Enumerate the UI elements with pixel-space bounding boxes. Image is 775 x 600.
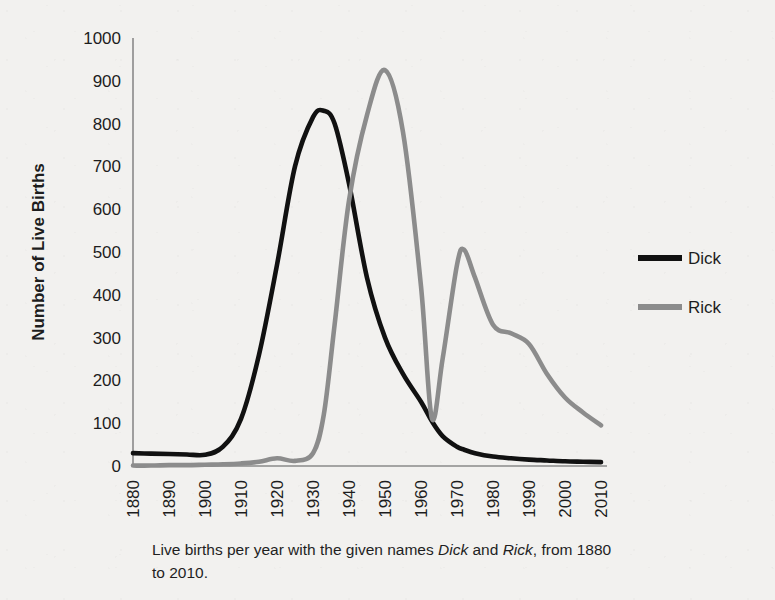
x-tick-label: 1970 bbox=[448, 480, 467, 518]
x-tick-label: 1890 bbox=[160, 480, 179, 518]
y-tick-label: 700 bbox=[93, 157, 121, 176]
y-tick-label: 600 bbox=[93, 200, 121, 219]
y-tick-label: 100 bbox=[93, 414, 121, 433]
caption-name-rick: Rick bbox=[503, 541, 533, 558]
y-tick-label: 400 bbox=[93, 286, 121, 305]
caption-text-post: , bbox=[533, 541, 537, 558]
caption-text-mid: and bbox=[468, 541, 502, 558]
x-tick-label: 1910 bbox=[232, 480, 251, 518]
figure-caption: Live births per year with the given name… bbox=[152, 538, 622, 584]
y-tick-label: 1000 bbox=[83, 29, 121, 48]
x-tick-label: 1990 bbox=[520, 480, 539, 518]
series-line-dick bbox=[133, 110, 601, 462]
x-tick-label: 2000 bbox=[556, 480, 575, 518]
x-tick-label: 1950 bbox=[376, 480, 395, 518]
x-tick-label: 1930 bbox=[304, 480, 323, 518]
x-tick-label: 2010 bbox=[592, 480, 611, 518]
y-tick-label: 200 bbox=[93, 371, 121, 390]
x-tick-label: 1980 bbox=[484, 480, 503, 518]
y-tick-label: 0 bbox=[112, 457, 121, 476]
y-axis-title: Number of Live Births bbox=[29, 163, 48, 341]
line-chart: 01002003004005006007008009001000Number o… bbox=[0, 0, 775, 600]
x-tick-label: 1960 bbox=[412, 480, 431, 518]
x-tick-label: 1940 bbox=[340, 480, 359, 518]
caption-name-dick: Dick bbox=[438, 541, 468, 558]
y-tick-label: 500 bbox=[93, 243, 121, 262]
legend-label-dick: Dick bbox=[688, 249, 722, 268]
x-tick-label: 1880 bbox=[124, 480, 143, 518]
y-tick-label: 900 bbox=[93, 72, 121, 91]
y-tick-label: 300 bbox=[93, 329, 121, 348]
legend-label-rick: Rick bbox=[688, 298, 722, 317]
chart-figure: 01002003004005006007008009001000Number o… bbox=[0, 0, 775, 600]
x-tick-label: 1900 bbox=[196, 480, 215, 518]
caption-text-pre: Live births per year with the given name… bbox=[152, 541, 438, 558]
x-tick-label: 1920 bbox=[268, 480, 287, 518]
y-tick-label: 800 bbox=[93, 115, 121, 134]
